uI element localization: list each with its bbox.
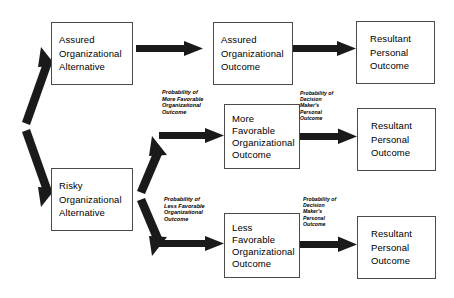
arrow-assured-alternative-to-outcome (136, 41, 203, 56)
box-line: Resultant (371, 119, 412, 133)
box-line: Organizational (232, 246, 295, 258)
label-probability-less-favorable-organizational-outcome: Probability of Less Favorable Organizati… (164, 196, 205, 222)
box-resultant-personal-outcome-bottom: Resultant Personal Outcome (357, 216, 436, 279)
box-risky-organizational-alternative: Risky Organizational Alternative (51, 168, 133, 231)
label-line: Probability of (162, 89, 203, 96)
box-line: Outcome (371, 146, 410, 160)
box-line: More (232, 113, 254, 125)
box-line: Personal (370, 46, 408, 60)
box-line: Alternative (59, 60, 105, 74)
box-line: Favorable (232, 125, 275, 137)
label-line: Less Favorable (164, 203, 205, 210)
box-more-favorable-organizational-outcome: More Favorable Organizational Outcome (224, 104, 300, 169)
label-probability-decision-makers-personal-outcome-bottom: Probability of Decision Maker's Personal… (303, 196, 336, 227)
label-probability-decision-makers-personal-outcome-middle: Probability of Decision Maker's Personal… (300, 90, 333, 121)
arrow-less-favorable-to-personal (300, 237, 357, 253)
box-assured-organizational-alternative: Assured Organizational Alternative (51, 22, 133, 85)
label-line: Organizational (164, 209, 205, 216)
box-line: Organizational (232, 137, 295, 149)
box-line: Outcome (232, 149, 271, 161)
label-line: Outcome (164, 216, 205, 223)
box-resultant-personal-outcome-middle: Resultant Personal Outcome (357, 108, 436, 171)
box-line: Alternative (59, 206, 105, 220)
label-line: Outcome (300, 115, 333, 121)
box-line: Personal (371, 133, 409, 147)
arrow-to-less-favorable-outcome (159, 236, 224, 251)
box-line: Organizational (221, 47, 284, 61)
box-line: Outcome (370, 59, 409, 73)
box-less-favorable-organizational-outcome: Less Favorable Organizational Outcome (224, 213, 300, 278)
label-line: Probability of (164, 196, 205, 203)
box-line: Favorable (232, 234, 275, 246)
box-line: Assured (221, 33, 257, 47)
box-line: Outcome (371, 254, 410, 268)
arrow-more-favorable-to-personal (300, 129, 357, 145)
label-probability-more-favorable-organizational-outcome: Probability of More Favorable Organizati… (162, 89, 203, 115)
box-line: Personal (371, 241, 409, 255)
box-line: Assured (59, 33, 95, 47)
branch-arrow-right (137, 136, 167, 256)
label-line: Organizational (162, 102, 203, 109)
box-line: Outcome (221, 60, 260, 74)
box-line: Risky (59, 179, 83, 193)
diagram-canvas: Assured Organizational Alternative Assur… (0, 0, 454, 298)
box-line: Resultant (370, 32, 411, 46)
label-line: Outcome (162, 109, 203, 116)
box-line: Organizational (59, 193, 122, 207)
arrow-assured-outcome-to-personal (293, 41, 356, 56)
label-line: More Favorable (162, 96, 203, 103)
box-line: Resultant (371, 227, 412, 241)
box-resultant-personal-outcome-top: Resultant Personal Outcome (356, 21, 435, 84)
label-line: Outcome (303, 221, 336, 227)
box-line: Less (232, 222, 252, 234)
box-assured-organizational-outcome: Assured Organizational Outcome (213, 22, 293, 85)
box-line: Outcome (232, 258, 271, 270)
box-line: Organizational (59, 47, 122, 61)
arrow-to-more-favorable-outcome (159, 128, 224, 143)
